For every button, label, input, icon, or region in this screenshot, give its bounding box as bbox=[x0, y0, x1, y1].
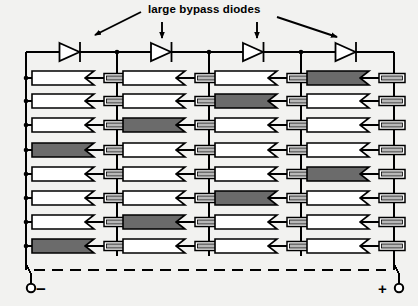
caption-large-bypass-diodes: large bypass diodes bbox=[148, 4, 260, 16]
solar-cell-shaded bbox=[307, 167, 405, 181]
solar-cell bbox=[215, 239, 313, 253]
solar-cell bbox=[123, 239, 221, 253]
solar-cell bbox=[215, 167, 313, 181]
solar-cell-shaded bbox=[215, 191, 313, 205]
bypass-diode-2 bbox=[151, 42, 172, 62]
annotation-arrow-layer bbox=[95, 12, 337, 38]
bypass-diode-1 bbox=[60, 42, 81, 62]
bypass-diode-4 bbox=[336, 42, 357, 62]
positive-terminal-label: + bbox=[378, 281, 387, 296]
solar-cell bbox=[307, 191, 405, 205]
solar-cell bbox=[32, 118, 130, 132]
solar-cell bbox=[32, 215, 130, 229]
circuit-diagram-root: large bypass diodes − + bbox=[0, 0, 418, 306]
solar-cell-shaded bbox=[123, 215, 221, 229]
solar-cell bbox=[32, 71, 130, 85]
solar-cell bbox=[32, 191, 130, 205]
solar-cell bbox=[123, 94, 221, 108]
arrow-to-diode-1 bbox=[95, 12, 141, 35]
solar-cell bbox=[123, 191, 221, 205]
solar-cell bbox=[307, 94, 405, 108]
solar-cell bbox=[307, 215, 405, 229]
arrow-to-diode-4 bbox=[277, 17, 337, 37]
solar-cell bbox=[32, 94, 130, 108]
cell-grid-layer bbox=[32, 71, 405, 253]
solar-cell bbox=[215, 71, 313, 85]
negative-terminal bbox=[27, 284, 35, 292]
solar-cell bbox=[307, 118, 405, 132]
solar-cell bbox=[307, 239, 405, 253]
solar-cell bbox=[123, 71, 221, 85]
solar-cell-shaded bbox=[32, 143, 130, 157]
terminal-layer bbox=[27, 284, 403, 292]
solar-cell bbox=[215, 143, 313, 157]
solar-cell bbox=[32, 167, 130, 181]
solar-cell-shaded bbox=[215, 94, 313, 108]
positive-terminal bbox=[395, 284, 403, 292]
solar-cell-shaded bbox=[307, 71, 405, 85]
solar-cell bbox=[215, 215, 313, 229]
schematic-canvas bbox=[0, 0, 418, 306]
solar-cell bbox=[123, 143, 221, 157]
solar-cell-shaded bbox=[123, 118, 221, 132]
solar-cell-shaded bbox=[32, 239, 130, 253]
solar-cell bbox=[307, 143, 405, 157]
bypass-diode-3 bbox=[243, 42, 264, 62]
solar-cell bbox=[123, 167, 221, 181]
negative-terminal-label: − bbox=[36, 281, 46, 298]
solar-cell bbox=[215, 118, 313, 132]
